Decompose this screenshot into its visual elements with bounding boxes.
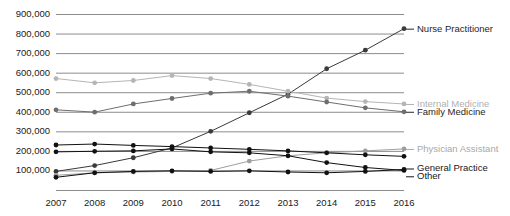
data-point <box>92 80 97 85</box>
data-point <box>286 170 291 175</box>
data-point <box>247 89 252 94</box>
data-point <box>170 144 175 149</box>
data-point <box>402 109 407 114</box>
series-other <box>54 167 407 180</box>
y-tick-label: 300,000 <box>0 125 50 136</box>
data-point <box>402 26 407 31</box>
data-point <box>92 163 97 168</box>
data-point <box>170 96 175 101</box>
data-point <box>92 110 97 115</box>
data-point <box>402 147 407 152</box>
data-point <box>131 148 136 153</box>
y-tick-label: 500,000 <box>0 86 50 97</box>
series-label-nurse-practitioner: Nurse Practitioner <box>417 24 493 34</box>
y-tick-label: 700,000 <box>0 47 50 58</box>
data-point <box>54 149 59 154</box>
data-point <box>54 76 59 81</box>
data-point <box>92 142 97 147</box>
x-tick-label-2016: 2016 <box>379 197 429 208</box>
y-tick-label: 600,000 <box>0 67 50 78</box>
data-point <box>208 91 213 96</box>
data-point <box>286 148 291 153</box>
y-tick-label: 400,000 <box>0 106 50 117</box>
data-point <box>363 99 368 104</box>
data-point <box>363 169 368 174</box>
data-point <box>208 129 213 134</box>
data-point <box>363 48 368 53</box>
y-tick-label: 800,000 <box>0 28 50 39</box>
data-point <box>286 153 291 158</box>
data-point <box>286 89 291 94</box>
data-point <box>247 147 252 152</box>
y-tick-label: 900,000 <box>0 8 50 19</box>
series-line <box>56 91 404 112</box>
data-point <box>170 168 175 173</box>
series-label-other: Other <box>417 171 441 181</box>
data-point <box>170 73 175 78</box>
series-general-practice <box>54 147 407 173</box>
data-point <box>54 143 59 148</box>
series-label-family-medicine: Family Medicine <box>417 107 486 117</box>
y-tick-label: 100,000 <box>0 164 50 175</box>
data-point <box>54 175 59 180</box>
data-point <box>324 150 329 155</box>
data-point <box>92 170 97 175</box>
series-line <box>56 76 404 104</box>
data-point <box>208 76 213 81</box>
data-point <box>402 167 407 172</box>
data-point <box>131 143 136 148</box>
data-point <box>131 102 136 107</box>
data-point <box>208 169 213 174</box>
series-label-physician-assistant: Physician Assistant <box>417 144 498 154</box>
series-secondary-lower <box>54 142 407 159</box>
data-point <box>247 159 252 164</box>
data-point <box>363 152 368 157</box>
data-point <box>131 169 136 174</box>
data-point <box>402 102 407 107</box>
series-line <box>56 144 404 156</box>
data-point <box>247 110 252 115</box>
data-point <box>324 100 329 105</box>
data-point <box>402 154 407 159</box>
data-point <box>131 78 136 83</box>
data-point <box>131 155 136 160</box>
data-point <box>247 82 252 87</box>
data-point <box>247 168 252 173</box>
data-point <box>363 105 368 110</box>
data-point <box>54 107 59 112</box>
series-line <box>56 149 404 171</box>
data-point <box>324 170 329 175</box>
line-chart: 900,000800,000700,000600,000500,000400,0… <box>0 0 510 216</box>
data-point <box>324 160 329 165</box>
data-point <box>286 94 291 99</box>
data-point <box>92 149 97 154</box>
y-tick-label: 200,000 <box>0 145 50 156</box>
data-point <box>324 66 329 71</box>
data-point <box>208 146 213 151</box>
series-internal-medicine <box>54 73 407 106</box>
